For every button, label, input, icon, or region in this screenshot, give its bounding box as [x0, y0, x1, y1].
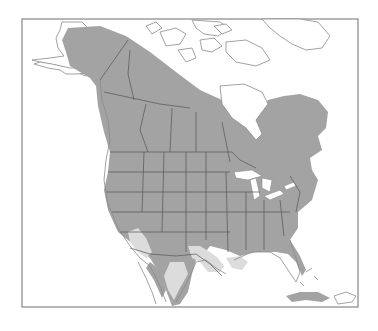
map-canvas [0, 0, 378, 331]
range-map [0, 0, 378, 331]
